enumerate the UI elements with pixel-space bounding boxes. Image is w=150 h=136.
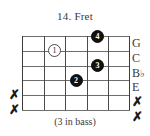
note-label-3: B♭ — [132, 66, 145, 80]
flat-icon: ♭ — [140, 67, 145, 78]
note-label-4: E — [132, 80, 139, 94]
fret-line-3 — [87, 36, 88, 110]
note-letter: ✗ — [132, 94, 143, 109]
finger-dot-1[interactable]: 1 — [48, 44, 61, 57]
chord-title: 14. Fret — [0, 10, 150, 22]
note-letter: B — [132, 66, 140, 80]
finger-dot-4[interactable]: 4 — [91, 30, 104, 43]
fret-line-2 — [65, 36, 66, 110]
chord-diagram: 14. Fret 4132 GCB♭E✗✗ ✗✗ (3 in bass) — [0, 0, 150, 136]
string-line-5 — [22, 95, 130, 96]
finger-dot-2[interactable]: 2 — [70, 74, 83, 87]
fretboard-grid: 4132 — [22, 36, 130, 110]
fret-line-4 — [108, 36, 109, 110]
chord-caption: (3 in bass) — [0, 116, 150, 127]
note-letter: E — [132, 80, 139, 94]
string-line-3 — [22, 66, 130, 67]
muted-string-marker-right-5: ✗ — [132, 95, 143, 109]
fret-line-5 — [129, 36, 130, 110]
string-line-6 — [22, 110, 130, 111]
note-label-2: C — [132, 51, 140, 65]
muted-string-marker-left-6: ✗ — [8, 103, 20, 117]
note-letter: G — [132, 36, 141, 50]
fret-line-0 — [22, 36, 23, 110]
muted-string-marker-left-5: ✗ — [8, 88, 20, 102]
string-line-1 — [22, 36, 130, 37]
note-label-1: G — [132, 36, 141, 50]
finger-dot-3[interactable]: 3 — [91, 59, 104, 72]
string-line-2 — [22, 51, 130, 52]
note-letter: C — [132, 51, 140, 65]
fret-line-1 — [44, 36, 45, 110]
